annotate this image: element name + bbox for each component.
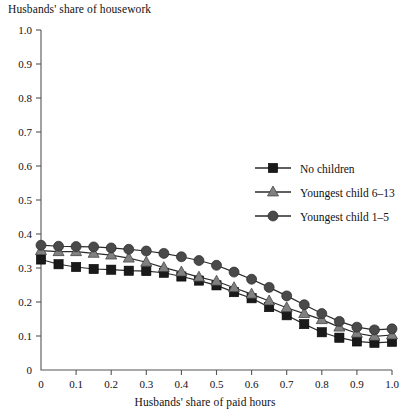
- svg-text:0.2: 0.2: [18, 296, 32, 308]
- legend-item: No children: [255, 163, 355, 175]
- svg-text:0.3: 0.3: [139, 378, 153, 390]
- line-chart-plot: 00.10.20.30.40.50.60.70.80.91.000.10.20.…: [0, 0, 410, 420]
- svg-text:0.7: 0.7: [280, 378, 294, 390]
- svg-text:0.9: 0.9: [350, 378, 364, 390]
- svg-text:0.1: 0.1: [69, 378, 83, 390]
- svg-text:0.9: 0.9: [18, 58, 32, 70]
- legend-label: No children: [300, 163, 355, 175]
- legend-item: Youngest child 6–13: [255, 186, 395, 200]
- svg-text:1.0: 1.0: [18, 24, 32, 36]
- series-triangle: [35, 245, 397, 341]
- svg-text:0.6: 0.6: [245, 378, 259, 390]
- svg-text:0.5: 0.5: [18, 194, 32, 206]
- svg-text:0.3: 0.3: [18, 262, 32, 274]
- x-axis-label: Husbands' share of paid hours: [0, 396, 410, 408]
- chart-legend: No childrenYoungest child 6–13Youngest c…: [255, 163, 395, 224]
- legend-label: Youngest child 1–5: [300, 211, 389, 224]
- legend-label: Youngest child 6–13: [300, 187, 395, 200]
- svg-text:0.6: 0.6: [18, 160, 32, 172]
- legend-item: Youngest child 1–5: [255, 211, 389, 224]
- svg-text:0: 0: [27, 364, 33, 376]
- svg-text:0.4: 0.4: [18, 228, 32, 240]
- svg-text:0.1: 0.1: [18, 330, 32, 342]
- svg-text:0.8: 0.8: [315, 378, 329, 390]
- svg-text:0.2: 0.2: [104, 378, 118, 390]
- svg-text:1.0: 1.0: [385, 378, 399, 390]
- svg-text:0: 0: [38, 378, 44, 390]
- svg-text:0.5: 0.5: [210, 378, 224, 390]
- chart-container: Husbands' share of housework 00.10.20.30…: [0, 0, 410, 420]
- svg-text:0.7: 0.7: [18, 126, 32, 138]
- svg-text:0.8: 0.8: [18, 92, 32, 104]
- data-series: [35, 240, 397, 347]
- svg-text:0.4: 0.4: [175, 378, 189, 390]
